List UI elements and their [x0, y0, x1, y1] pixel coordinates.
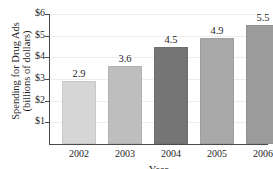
bar-value-label: 4.5: [148, 34, 194, 45]
bar[interactable]: [246, 25, 273, 144]
bar-slot: 5.5: [246, 14, 273, 144]
bar[interactable]: [108, 66, 142, 144]
y-axis-tick-label: $2: [35, 94, 45, 105]
bar-value-label: 2.9: [56, 68, 102, 79]
plot-area: $6$5$4$3$2$1 2.93.64.54.95.5 20022003200…: [49, 14, 268, 145]
bar-slot: 4.5: [154, 14, 188, 144]
bar-slot: 3.6: [108, 14, 142, 144]
x-axis-tick-label: 2004: [148, 148, 194, 159]
bar[interactable]: [154, 47, 188, 145]
y-axis-tick-labels: $6$5$4$3$2$1: [15, 14, 45, 145]
bar-value-label: 4.9: [194, 25, 240, 36]
bar-value-label: 5.5: [240, 12, 273, 23]
y-axis-tick-label: $5: [35, 29, 45, 40]
x-axis-tick-label: 2005: [194, 148, 240, 159]
cropped-title-artifact: [0, 0, 273, 6]
y-axis-tick-label: $1: [35, 115, 45, 126]
bar-value-label: 3.6: [102, 53, 148, 64]
bar[interactable]: [200, 38, 234, 144]
x-axis-tick-label: 2002: [56, 148, 102, 159]
bar-series: 2.93.64.54.95.5: [50, 14, 268, 144]
x-axis-tick-label: 2006: [240, 148, 273, 159]
bar[interactable]: [62, 81, 96, 144]
x-axis-tick-label: 2003: [102, 148, 148, 159]
bar-slot: 4.9: [200, 14, 234, 144]
bar-slot: 2.9: [62, 14, 96, 144]
y-axis-tick-label: $4: [35, 50, 45, 61]
y-axis-tick-label: $3: [35, 72, 45, 83]
bar-chart: Spending for Drug Ads (billions of dolla…: [0, 0, 273, 169]
x-axis-line: [49, 144, 268, 145]
y-axis-tick-label: $6: [35, 7, 45, 18]
x-axis-title: Year: [49, 164, 268, 169]
